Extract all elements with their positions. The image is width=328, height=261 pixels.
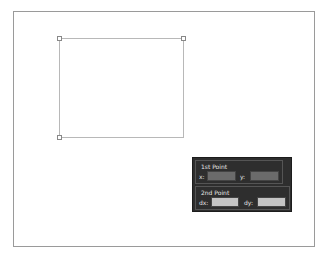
dx-input[interactable] xyxy=(211,197,239,207)
second-point-title: 2nd Point xyxy=(201,189,229,196)
x-input[interactable] xyxy=(207,171,236,181)
first-point-title: 1st Point xyxy=(201,163,227,170)
handle-top-left[interactable] xyxy=(57,36,62,41)
dx-label: dx: xyxy=(199,199,208,206)
y-input[interactable] xyxy=(250,171,279,181)
first-point-group: 1st Point x: y: xyxy=(195,160,283,184)
coordinate-panel: 1st Point x: y: 2nd Point dx: dy: xyxy=(192,157,292,212)
dy-input[interactable] xyxy=(257,197,286,207)
handle-bottom-left[interactable] xyxy=(57,135,62,140)
dy-label: dy: xyxy=(244,199,253,206)
second-point-group: 2nd Point dx: dy: xyxy=(195,186,290,210)
handle-top-right[interactable] xyxy=(181,36,186,41)
y-label: y: xyxy=(240,173,245,180)
drawn-rectangle[interactable] xyxy=(59,38,184,138)
x-label: x: xyxy=(199,173,205,180)
